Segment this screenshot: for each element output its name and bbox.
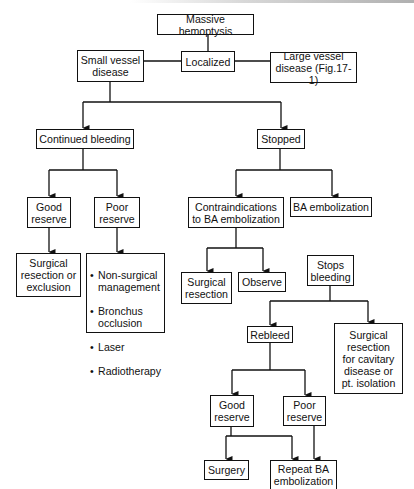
option-non-surgical-management: Non-surgical management [90, 269, 161, 293]
node-poor-reserve-1: Poor reserve [94, 197, 140, 228]
node-good-reserve-2: Good reserve [210, 395, 254, 427]
node-observe: Observe [238, 272, 286, 292]
node-surgical-resection: Surgical resection [181, 272, 232, 304]
option-radiotherapy: Radiotherapy [90, 365, 161, 377]
node-localized: Localized [181, 51, 235, 72]
node-surgical-resection-cavitary: Surgical resection for cavitary disease … [334, 323, 403, 394]
node-massive-hemoptysis: Massive hemoptysis [157, 14, 254, 35]
node-surgical-resection-or-exclusion: Surgical resection or exclusion [16, 253, 81, 297]
node-ba-embolization: BA embolization [290, 197, 372, 217]
node-contraindications-ba-embolization: Contraindications to BA embolization [188, 197, 284, 228]
node-large-vessel-disease: Large vessel disease (Fig.17-1) [270, 52, 357, 83]
node-repeat-ba-embolization: Repeat BA embolization [270, 460, 337, 489]
poor-reserve-options-list: Non-surgical management Bronchus occlusi… [90, 257, 161, 389]
node-stopped: Stopped [257, 129, 305, 149]
option-bronchus-occlusion: Bronchus occlusion [90, 305, 161, 329]
node-small-vessel-disease: Small vessel disease [77, 50, 144, 82]
node-poor-reserve-2: Poor reserve [283, 396, 326, 426]
node-continued-bleeding: Continued bleeding [36, 129, 134, 149]
option-laser: Laser [90, 341, 161, 353]
node-good-reserve-1: Good reserve [27, 197, 71, 228]
node-rebleed: Rebleed [247, 326, 293, 343]
node-surgery: Surgery [204, 460, 249, 480]
node-stops-bleeding: Stops bleeding [307, 255, 354, 286]
flowchart-canvas: Massive hemoptysis Localized Small vesse… [0, 0, 414, 489]
node-poor-reserve-options: Non-surgical management Bronchus occlusi… [86, 253, 165, 333]
